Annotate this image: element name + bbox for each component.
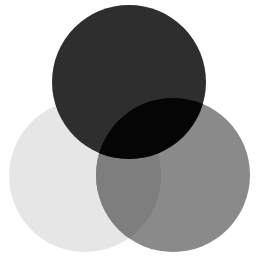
venn-svg xyxy=(0,0,256,265)
venn-diagram xyxy=(0,0,256,265)
